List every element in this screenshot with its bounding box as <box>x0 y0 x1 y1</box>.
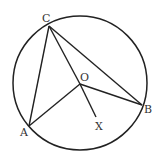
segment-ca <box>29 26 49 126</box>
label-o: O <box>80 71 89 84</box>
circle-diagram: C O A B X <box>0 0 160 157</box>
label-x: X <box>95 120 103 133</box>
segment-co <box>49 26 80 84</box>
label-b: B <box>144 103 152 116</box>
label-a: A <box>19 126 29 139</box>
segment-cb <box>49 26 142 105</box>
label-c: C <box>42 12 50 25</box>
